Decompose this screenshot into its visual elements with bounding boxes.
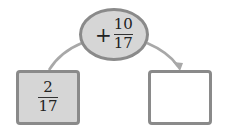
operation-fraction: 10 17	[114, 17, 133, 52]
input-fraction: 2 17	[38, 80, 57, 115]
answer-box[interactable]	[148, 70, 212, 125]
operation-numerator: 10	[114, 17, 133, 33]
plus-sign: +	[95, 25, 112, 45]
operation-denominator: 17	[114, 36, 133, 52]
operation-ellipse: + 10 17	[79, 8, 149, 61]
input-numerator: 2	[43, 80, 53, 96]
input-denominator: 17	[38, 99, 57, 115]
input-box: 2 17	[16, 70, 80, 125]
